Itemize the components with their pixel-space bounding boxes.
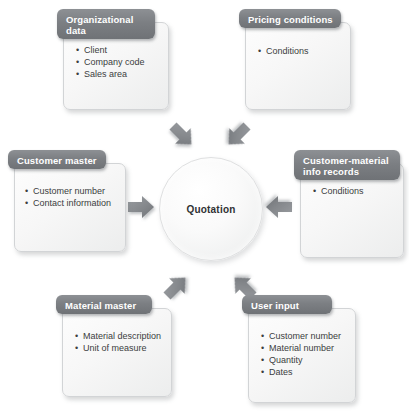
node-items-material-master: Material description Unit of measure xyxy=(75,331,167,355)
list-item: Unit of measure xyxy=(75,343,167,355)
arrow-customer-master xyxy=(128,196,154,218)
diagram-canvas: Quotation Organizational data Client Com… xyxy=(0,0,409,411)
node-items-pricing-conditions: Conditions xyxy=(258,46,346,58)
list-item: Material description xyxy=(75,331,167,343)
arrow-pricing-conditions xyxy=(221,118,255,152)
center-node-label: Quotation xyxy=(186,204,235,215)
list-item: Dates xyxy=(261,367,351,379)
arrow-material-master xyxy=(159,270,193,304)
node-items-user-input: Customer number Material number Quantity… xyxy=(261,331,351,379)
list-item: Quantity xyxy=(261,355,351,367)
list-item: Company code xyxy=(76,57,164,69)
list-item: Material number xyxy=(261,343,351,355)
list-item: Customer number xyxy=(261,331,351,343)
list-item: Contact information xyxy=(25,198,121,210)
node-body-pricing-conditions xyxy=(245,22,351,110)
list-item: Conditions xyxy=(313,186,399,198)
node-header-pricing-conditions: Pricing conditions xyxy=(239,9,341,28)
arrow-customer-material-info-records xyxy=(266,196,292,218)
list-item: Conditions xyxy=(258,46,346,58)
arrow-organizational-data xyxy=(165,118,199,152)
node-items-customer-material-info-records: Conditions xyxy=(313,186,399,198)
node-header-customer-master: Customer master xyxy=(8,150,106,169)
node-header-material-master: Material master xyxy=(56,295,152,314)
node-header-customer-material-info-records: Customer-material info records xyxy=(294,150,400,180)
list-item: Client xyxy=(76,45,164,57)
node-items-organizational-data: Client Company code Sales area xyxy=(76,45,164,81)
node-items-customer-master: Customer number Contact information xyxy=(25,186,121,210)
list-item: Sales area xyxy=(76,69,164,81)
center-node-quotation: Quotation xyxy=(159,157,263,261)
node-header-user-input: User input xyxy=(242,295,332,314)
list-item: Customer number xyxy=(25,186,121,198)
node-header-organizational-data: Organizational data xyxy=(57,9,155,39)
